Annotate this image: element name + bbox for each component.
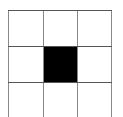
grid-3x3 [8,10,112,117]
filled-cell-center [44,47,77,82]
grid-line-left [8,10,9,117]
grid-line-right [111,10,112,117]
grid-line-h2 [8,82,112,83]
grid-line-v2 [77,10,78,117]
grid-line-top [8,10,112,11]
